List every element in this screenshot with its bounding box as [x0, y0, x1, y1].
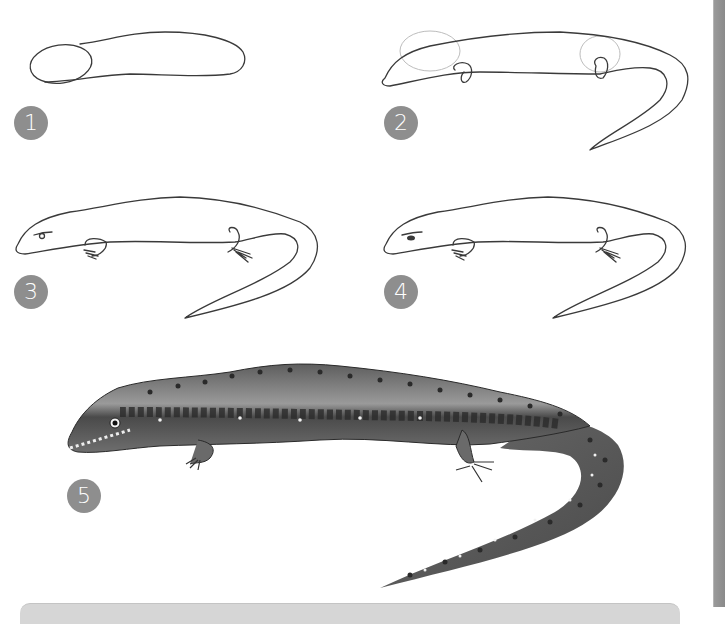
step-badge-2: 2	[384, 106, 418, 140]
step-badge-3: 3	[14, 275, 48, 309]
step-3-sketch	[16, 197, 317, 318]
step-5-finished-lizard	[68, 364, 624, 588]
step-1-sketch	[28, 32, 245, 87]
step-badge-4: 4	[384, 275, 418, 309]
step-4-sketch	[384, 197, 685, 318]
step-badge-5: 5	[67, 479, 101, 513]
page-edge-bar	[713, 0, 725, 607]
step-2-sketch	[382, 31, 688, 150]
step-badge-1: 1	[14, 106, 48, 140]
bottom-panel	[20, 603, 680, 624]
